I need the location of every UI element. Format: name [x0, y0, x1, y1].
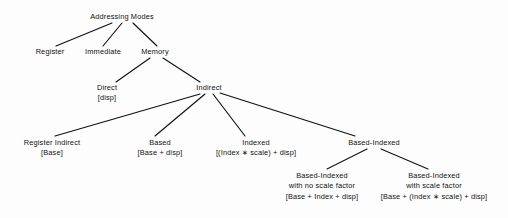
- tree-node-based-indexed-scale: Based-Indexedwith scale factor[Base + (I…: [381, 171, 488, 202]
- tree-edge-indirect: [163, 58, 200, 82]
- tree-node-label: Indexed: [216, 138, 296, 148]
- tree-edge-direct: [116, 58, 150, 82]
- tree-node-label: Indirect: [196, 83, 221, 93]
- tree-node-immediate: Immediate: [85, 47, 121, 57]
- tree-node-label: Immediate: [85, 47, 121, 57]
- tree-node-based-indexed: Based-Indexed: [348, 138, 400, 148]
- tree-edge-immediate: [103, 23, 122, 46]
- tree-edge-register: [56, 23, 112, 46]
- tree-node-label: Register: [36, 47, 65, 57]
- tree-node-label: with no scale factor: [286, 181, 359, 191]
- tree-node-based-indexed-no-scale: Based-Indexedwith no scale factor[Base +…: [286, 171, 359, 202]
- tree-edge-memory: [133, 23, 157, 46]
- tree-node-label: [Base + Index + disp]: [286, 192, 359, 202]
- tree-node-label: [(Index ∗ scale) + disp]: [216, 148, 296, 158]
- tree-node-label: [disp]: [97, 93, 117, 103]
- tree-node-label: Direct: [97, 83, 117, 93]
- tree-edge-based-indexed-no-scale: [327, 149, 367, 169]
- tree-node-label: [Base]: [24, 148, 80, 158]
- addressing-modes-tree-diagram: Addressing ModesRegisterImmediateMemoryD…: [0, 0, 508, 218]
- tree-node-label: Based-Indexed: [286, 171, 359, 181]
- tree-node-direct: Direct[disp]: [97, 83, 117, 104]
- tree-node-label: Based-Indexed: [381, 171, 488, 181]
- tree-node-label: Register Indirect: [24, 138, 80, 148]
- tree-node-label: Based: [138, 138, 183, 148]
- tree-node-label: Addressing Modes: [90, 12, 154, 22]
- tree-edge-indexed: [213, 94, 245, 136]
- tree-edge-based-indexed-scale: [381, 149, 428, 169]
- tree-node-memory: Memory: [141, 47, 169, 57]
- tree-node-register-indirect: Register Indirect[Base]: [24, 138, 80, 159]
- tree-node-based: Based[Base + disp]: [138, 138, 183, 159]
- tree-node-label: Based-Indexed: [348, 138, 400, 148]
- tree-node-indexed: Indexed[(Index ∗ scale) + disp]: [216, 138, 296, 159]
- tree-edge-register-indirect: [55, 94, 200, 136]
- tree-node-label: [Base + disp]: [138, 148, 183, 158]
- tree-node-label: [Base + (Index ∗ scale) + disp]: [381, 192, 488, 202]
- tree-node-label: Memory: [141, 47, 169, 57]
- tree-node-label: with scale factor: [381, 181, 488, 191]
- tree-node-register: Register: [36, 47, 65, 57]
- tree-node-addressing-modes: Addressing Modes: [90, 12, 154, 22]
- tree-node-indirect: Indirect: [196, 83, 221, 93]
